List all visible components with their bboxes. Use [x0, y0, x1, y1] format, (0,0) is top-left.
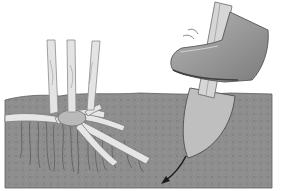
illustration: Illustration: a booted foot pushes a spa…	[0, 0, 281, 191]
